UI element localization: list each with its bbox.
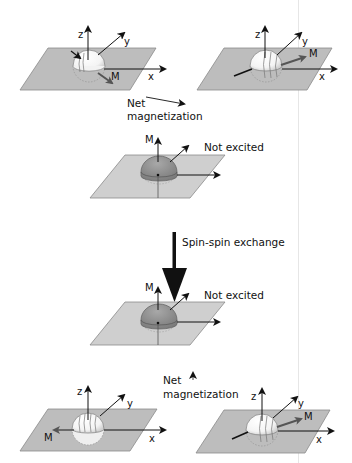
z-axis-label: z (77, 387, 82, 397)
net-magnetization-arrow-large (146, 97, 184, 104)
y-axis-label: y (298, 399, 304, 409)
x-axis-label: x (148, 72, 154, 82)
panel-top-left (20, 27, 165, 90)
x-axis-label: x (316, 435, 322, 445)
z-axis-label: z (251, 392, 256, 402)
spin-spin-exchange-label: Spin-spin exchange (182, 237, 285, 248)
net-magnetization-label-line1: Net (163, 375, 181, 386)
net-magnetization-label-line1: Net (127, 98, 145, 109)
m-label: M (145, 283, 154, 293)
panel-bottom-left (20, 387, 165, 451)
net-magnetization-label-line2: magnetization (127, 111, 203, 122)
m-label: M (44, 433, 53, 443)
not-excited-label: Not excited (204, 290, 264, 301)
m-label: M (145, 135, 154, 145)
not-excited-label: Not excited (204, 142, 264, 153)
x-axis-label: x (319, 72, 325, 82)
y-axis-label: y (127, 399, 133, 409)
y-axis-label: y (124, 37, 130, 47)
x-axis-label: x (149, 434, 155, 444)
m-label: M (111, 72, 120, 82)
y-axis-label: y (302, 37, 308, 47)
m-label: M (309, 49, 318, 59)
z-axis-label: z (255, 30, 260, 40)
z-axis-label: z (78, 30, 83, 40)
net-magnetization-label-line2: magnetization (163, 389, 239, 400)
m-label: M (304, 412, 313, 422)
